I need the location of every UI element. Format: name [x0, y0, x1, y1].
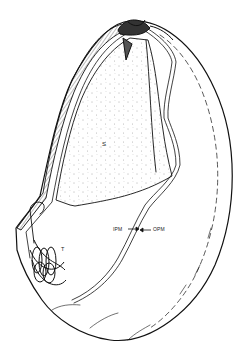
egg-cross-section-diagram [0, 0, 248, 354]
label-t: T [61, 247, 65, 253]
opm-arrow-icon [140, 228, 151, 232]
label-ipm: IPM [113, 227, 123, 232]
label-s: S [102, 141, 106, 147]
region-s [56, 38, 172, 206]
label-opm: OPM [153, 227, 165, 232]
shell-shading-strokes [52, 228, 211, 340]
